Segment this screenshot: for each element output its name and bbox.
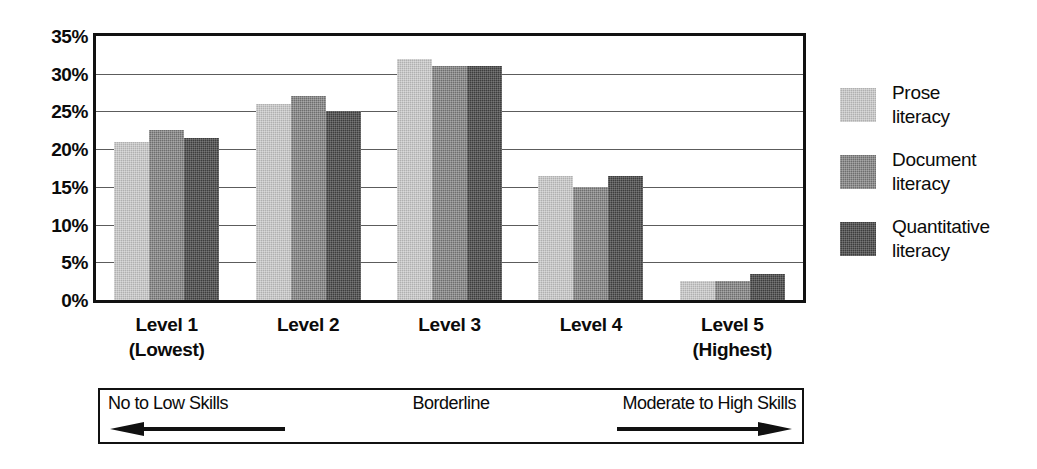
legend-item-document[interactable]: Documentliteracy	[836, 151, 1036, 213]
y-axis-tick-20pct: 20%	[22, 140, 88, 159]
legend-label-line2: literacy	[892, 105, 950, 129]
legend-label-quantitative: Quantitativeliteracy	[892, 215, 990, 263]
x-axis-label-level-1: Level 1(Lowest)	[96, 312, 237, 362]
y-axis-tick-25pct: 25%	[22, 102, 88, 121]
x-axis-label-line2: (Lowest)	[96, 337, 237, 362]
x-axis-label-line1: Level 1	[136, 314, 198, 335]
plot-area	[93, 33, 806, 303]
y-axis-tick-0pct: 0%	[22, 291, 88, 310]
x-axis-label-level-5: Level 5(Highest)	[662, 312, 803, 362]
bars-layer	[96, 36, 803, 300]
legend-item-prose[interactable]: Proseliteracy	[836, 84, 1036, 146]
legend-item-quantitative[interactable]: Quantitativeliteracy	[836, 218, 1036, 280]
bar-level-4-document	[573, 187, 608, 300]
legend-label-line1: Prose	[892, 82, 940, 103]
band-label-moderate-to-high-skills: Moderate to High Skills	[622, 392, 796, 415]
x-axis-category-labels: Level 1(Lowest)Level 2Level 3Level 4Leve…	[93, 312, 806, 378]
y-axis-tick-30pct: 30%	[22, 64, 88, 83]
bar-level-5-prose	[680, 281, 715, 300]
y-axis-tick-35pct: 35%	[22, 27, 88, 46]
literacy-levels-bar-chart: 0%5%10%15%20%25%30%35% Level 1(Lowest)Le…	[0, 0, 1037, 469]
legend-label-line1: Document	[892, 149, 976, 170]
legend-label-document: Documentliteracy	[892, 148, 976, 196]
y-axis-tick-5pct: 5%	[22, 253, 88, 272]
bar-level-4-prose	[538, 176, 573, 300]
bar-level-1-document	[149, 130, 184, 300]
x-axis-label-line1: Level 3	[418, 314, 480, 335]
x-axis-label-level-2: Level 2	[237, 312, 378, 337]
x-axis-label-line1: Level 5	[701, 314, 763, 335]
bar-level-3-prose	[397, 59, 432, 300]
right-arrow-icon	[617, 422, 792, 436]
bar-level-3-document	[432, 66, 467, 300]
dark-gray-swatch	[840, 222, 876, 256]
legend-label-line2: literacy	[892, 239, 990, 263]
legend-label-line1: Quantitative	[892, 216, 990, 237]
light-gray-swatch	[840, 88, 876, 122]
bar-level-2-prose	[256, 104, 291, 300]
bar-level-5-quantitative	[750, 274, 785, 300]
left-arrow-icon	[110, 422, 285, 436]
skills-annotation-band: No to Low Skills Borderline Moderate to …	[98, 388, 804, 444]
x-axis-label-line2: (Highest)	[662, 337, 803, 362]
x-axis-label-line1: Level 4	[560, 314, 622, 335]
y-axis-tick-labels: 0%5%10%15%20%25%30%35%	[14, 0, 88, 469]
bar-level-2-quantitative	[326, 111, 361, 300]
plot-inner	[96, 36, 803, 300]
x-axis-label-line1: Level 2	[277, 314, 339, 335]
bar-level-3-quantitative	[467, 66, 502, 300]
bar-level-5-document	[715, 281, 750, 300]
legend-label-prose: Proseliteracy	[892, 81, 950, 129]
chart-legend: ProseliteracyDocumentliteracyQuantitativ…	[836, 84, 1036, 284]
y-axis-tick-15pct: 15%	[22, 177, 88, 196]
medium-gray-swatch	[840, 155, 876, 189]
bar-level-1-quantitative	[184, 138, 219, 300]
bar-level-4-quantitative	[608, 176, 643, 300]
x-axis-label-level-3: Level 3	[379, 312, 520, 337]
bar-level-1-prose	[114, 142, 149, 300]
bar-level-2-document	[291, 96, 326, 300]
legend-label-line2: literacy	[892, 172, 976, 196]
x-axis-label-level-4: Level 4	[520, 312, 661, 337]
y-axis-tick-10pct: 10%	[22, 215, 88, 234]
